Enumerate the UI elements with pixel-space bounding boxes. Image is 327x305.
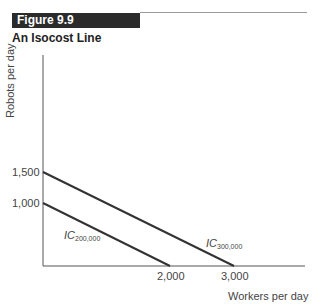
series-label-ic200000: IC200,000 xyxy=(64,229,100,242)
y-tick-1500: 1,500 xyxy=(12,166,40,178)
x-tick-2000: 2,000 xyxy=(157,270,185,282)
series-label-ic300000: IC300,000 xyxy=(206,237,242,250)
x-tick-3000: 3,000 xyxy=(221,270,249,282)
y-tick-1000: 1,000 xyxy=(12,197,40,209)
isocost-line-300000 xyxy=(43,172,234,266)
plot-area xyxy=(0,0,327,305)
isocost-line-200000 xyxy=(43,203,170,266)
